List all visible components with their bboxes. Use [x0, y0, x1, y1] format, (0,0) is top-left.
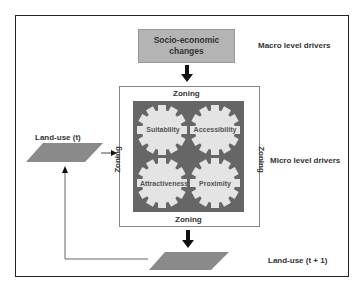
zoning-top-label: Zoning — [173, 89, 200, 98]
gear-suitability: Suitability — [140, 126, 186, 133]
landuse-t1-label: Land-use (t + 1) — [268, 256, 327, 265]
landuse-t1-parallelogram — [148, 251, 230, 271]
arrow-right-icon — [100, 148, 120, 158]
macro-level-label: Macro level drivers — [258, 41, 330, 50]
zoning-right-label: Zoning — [257, 146, 266, 173]
landuse-t-label: Land-use (t) — [35, 133, 81, 142]
socio-economic-changes-box: Socio-economic changes — [138, 29, 235, 63]
box-line2: changes — [139, 46, 234, 57]
landuse-t-parallelogram — [25, 142, 105, 164]
arrow-down-icon — [181, 65, 193, 83]
box-line1: Socio-economic — [139, 35, 234, 46]
feedback-arrow-icon — [60, 165, 150, 265]
arrow-down-icon — [182, 230, 194, 250]
zoning-bottom-label: Zoning — [175, 215, 202, 224]
micro-level-label: Micro level drivers — [270, 156, 340, 165]
gear-proximity: Proximity — [192, 180, 238, 187]
gear-accessibility: Accessibility — [192, 126, 238, 133]
